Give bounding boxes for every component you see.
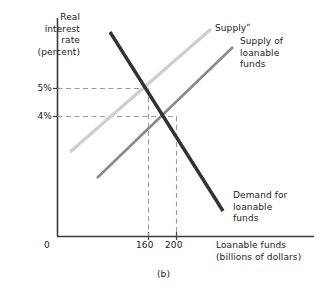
- panel-caption: (b): [157, 269, 170, 281]
- y-tick-label-5pct: 5%: [30, 83, 52, 95]
- origin-label: 0: [44, 240, 50, 252]
- supply-curve-label: Supply of loanable funds: [240, 36, 283, 71]
- x-axis-title: Loanable funds (billions of dollars): [216, 240, 301, 263]
- x-tick-label-200: 200: [165, 240, 182, 252]
- supply-shifted-curve: [70, 29, 211, 152]
- supply-shifted-curve-label: Supplyʺ: [215, 23, 251, 35]
- demand-curve-label: Demand for loanable funds: [233, 190, 287, 225]
- y-axis-title: Real interest rate (percent): [6, 12, 80, 58]
- y-tick-label-4pct: 4%: [30, 111, 52, 123]
- x-tick-label-160: 160: [136, 240, 153, 252]
- demand-curve: [110, 32, 223, 211]
- loanable-funds-chart-figure: Real interest rate (percent) 5% 4% 0 160…: [0, 0, 319, 292]
